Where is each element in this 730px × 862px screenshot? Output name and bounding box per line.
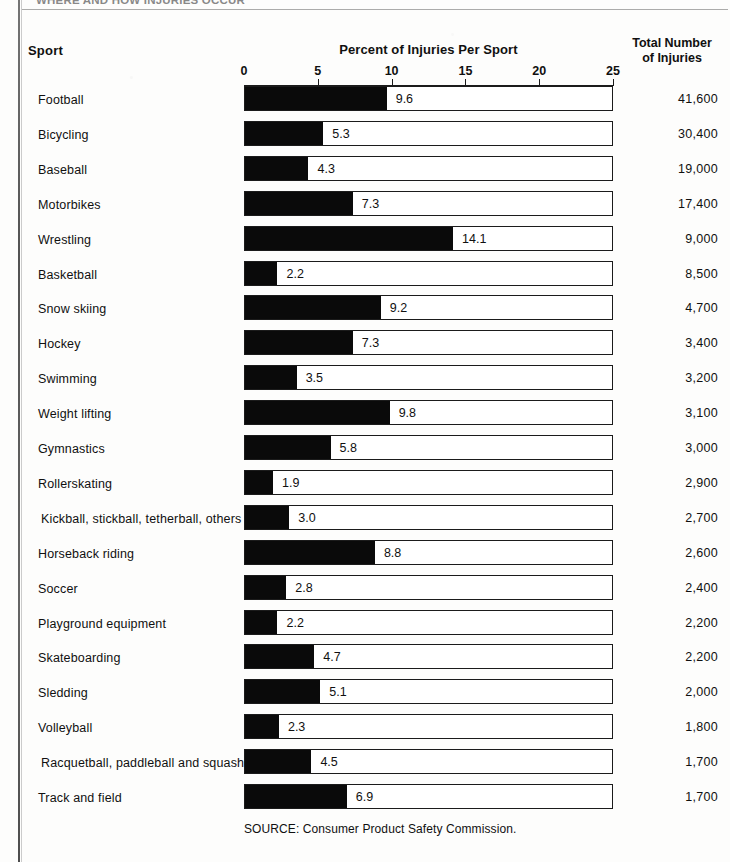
bar-value-label: 4.5 — [320, 755, 337, 769]
total-injuries-value: 1,700 — [616, 790, 718, 804]
total-injuries-value: 41,600 — [616, 92, 718, 106]
bar-track: 14.1 — [244, 226, 613, 251]
bar-fill — [245, 436, 331, 459]
bar-value-label: 2.2 — [286, 267, 303, 281]
total-injuries-value: 2,700 — [616, 511, 718, 525]
bar-track: 5.8 — [244, 435, 613, 460]
bar-fill — [245, 262, 277, 285]
bar-track: 3.5 — [244, 365, 613, 390]
chart-row: Skateboarding4.72,200 — [0, 643, 730, 676]
bar-value-label: 9.8 — [399, 406, 416, 420]
total-injuries-value: 2,200 — [616, 616, 718, 630]
bar-fill — [245, 331, 353, 354]
bar-fill — [245, 750, 311, 773]
total-injuries-value: 3,400 — [616, 336, 718, 350]
bar-track: 3.0 — [244, 505, 613, 530]
bar-fill — [245, 122, 323, 145]
sport-label: Soccer — [38, 582, 78, 596]
total-injuries-value: 1,700 — [616, 755, 718, 769]
chart-row: Wrestling14.19,000 — [0, 225, 730, 258]
bar-value-label: 2.2 — [286, 616, 303, 630]
bar-track: 6.9 — [244, 784, 613, 809]
bar-fill — [245, 366, 297, 389]
bar-track: 9.6 — [244, 86, 613, 111]
sport-label: Volleyball — [38, 721, 92, 735]
total-injuries-value: 2,200 — [616, 650, 718, 664]
chart-row: Motorbikes7.317,400 — [0, 190, 730, 223]
total-injuries-value: 3,000 — [616, 441, 718, 455]
bar-track: 1.9 — [244, 470, 613, 495]
chart-row: Playground equipment2.22,200 — [0, 609, 730, 642]
bar-track: 4.7 — [244, 644, 613, 669]
bar-fill — [245, 541, 375, 564]
total-injuries-value: 2,400 — [616, 581, 718, 595]
bar-value-label: 2.8 — [295, 581, 312, 595]
sport-label: Playground equipment — [38, 617, 166, 631]
chart-row: Weight lifting9.83,100 — [0, 399, 730, 432]
chart-row: Football9.641,600 — [0, 85, 730, 118]
chart-row: Kickball, stickball, tetherball, others3… — [0, 504, 730, 537]
chart-row: Horseback riding8.82,600 — [0, 539, 730, 572]
chart-row: Rollerskating1.92,900 — [0, 469, 730, 502]
bar-fill — [245, 296, 381, 319]
sport-label: Motorbikes — [38, 198, 101, 212]
bar-fill — [245, 506, 289, 529]
sport-label: Skateboarding — [38, 651, 121, 665]
total-injuries-value: 1,800 — [616, 720, 718, 734]
sport-label: Horseback riding — [38, 547, 134, 561]
bar-value-label: 3.5 — [306, 371, 323, 385]
bar-track: 7.3 — [244, 330, 613, 355]
source-note: SOURCE: Consumer Product Safety Commissi… — [244, 822, 644, 836]
bar-value-label: 3.0 — [298, 511, 315, 525]
chart-row: Track and field6.91,700 — [0, 783, 730, 816]
bar-value-label: 5.1 — [329, 685, 346, 699]
bar-value-label: 7.3 — [362, 197, 379, 211]
total-injuries-value: 2,600 — [616, 546, 718, 560]
bar-value-label: 6.9 — [356, 790, 373, 804]
bar-track: 5.3 — [244, 121, 613, 146]
bar-value-label: 8.8 — [384, 546, 401, 560]
sport-label: Swimming — [38, 372, 97, 386]
bar-value-label: 2.3 — [288, 720, 305, 734]
chart-row: Gymnastics5.83,000 — [0, 434, 730, 467]
bar-fill — [245, 401, 390, 424]
sport-label: Track and field — [38, 791, 122, 805]
bar-value-label: 5.3 — [332, 127, 349, 141]
bar-value-label: 7.3 — [362, 336, 379, 350]
bar-track: 2.2 — [244, 610, 613, 635]
bar-rows-container: Football9.641,600Bicycling5.330,400Baseb… — [0, 0, 730, 862]
bar-track: 2.3 — [244, 714, 613, 739]
sport-label: Racquetball, paddleball and squash — [41, 756, 244, 770]
bar-fill — [245, 715, 279, 738]
total-injuries-value: 17,400 — [616, 197, 718, 211]
bar-value-label: 14.1 — [462, 232, 486, 246]
total-injuries-value: 3,200 — [616, 371, 718, 385]
total-injuries-value: 19,000 — [616, 162, 718, 176]
total-injuries-value: 4,700 — [616, 301, 718, 315]
bar-value-label: 4.3 — [317, 162, 334, 176]
chart-row: Soccer2.82,400 — [0, 574, 730, 607]
bar-track: 2.8 — [244, 575, 613, 600]
chart-row: Bicycling5.330,400 — [0, 120, 730, 153]
chart-row: Racquetball, paddleball and squash4.51,7… — [0, 748, 730, 781]
bar-value-label: 1.9 — [282, 476, 299, 490]
bar-fill — [245, 227, 453, 250]
bar-fill — [245, 680, 320, 703]
bar-track: 7.3 — [244, 191, 613, 216]
bar-fill — [245, 785, 347, 808]
chart-row: Baseball4.319,000 — [0, 155, 730, 188]
bar-track: 9.2 — [244, 295, 613, 320]
bar-value-label: 9.2 — [390, 301, 407, 315]
bar-track: 9.8 — [244, 400, 613, 425]
sport-label: Snow skiing — [38, 302, 106, 316]
sport-label: Weight lifting — [38, 407, 111, 421]
total-injuries-value: 9,000 — [616, 232, 718, 246]
sport-label: Wrestling — [38, 233, 91, 247]
bar-value-label: 4.7 — [323, 650, 340, 664]
bar-track: 5.1 — [244, 679, 613, 704]
bar-fill — [245, 471, 273, 494]
bar-fill — [245, 611, 277, 634]
bar-fill — [245, 87, 387, 110]
bar-value-label: 9.6 — [396, 92, 413, 106]
bar-track: 4.5 — [244, 749, 613, 774]
